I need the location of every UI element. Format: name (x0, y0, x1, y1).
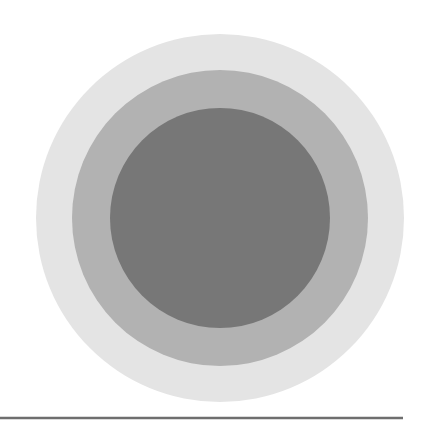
circles-group (36, 34, 404, 402)
concentric-circles-diagram (0, 0, 432, 430)
inner-circle (110, 108, 330, 328)
